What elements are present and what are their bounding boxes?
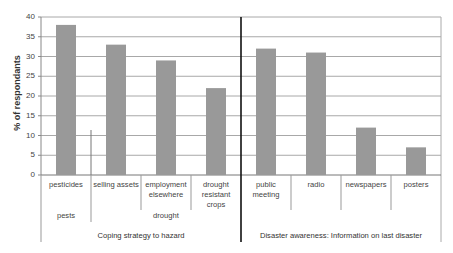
- category-label: publicmeeting: [241, 180, 291, 200]
- y-tick-label: 25: [11, 71, 35, 80]
- bar-drought-resistant-crops: [206, 88, 226, 175]
- category-label: droughtresistantcrops: [191, 180, 241, 210]
- category-label-line: drought: [191, 180, 241, 190]
- category-label-line: elsewhere: [141, 190, 191, 200]
- y-tick-label: 20: [11, 91, 35, 100]
- category-label: pesticides: [41, 180, 91, 190]
- y-tick-label: 40: [11, 12, 35, 21]
- bar-selling-assets: [106, 45, 126, 175]
- panel-title-awareness: Disaster awareness: Information on last …: [241, 231, 441, 240]
- bar-pesticides: [56, 25, 76, 175]
- category-label: employmentelsewhere: [141, 180, 191, 200]
- bar-chart: % of respondants 0510152025303540 pestic…: [0, 0, 453, 253]
- bar-employment-elsewhere: [156, 60, 176, 175]
- bar-radio: [306, 53, 326, 175]
- category-label: newspapers: [341, 180, 391, 190]
- y-tick-label: 0: [11, 170, 35, 179]
- y-tick-label: 5: [11, 150, 35, 159]
- category-label-line: public: [241, 180, 291, 190]
- category-label: radio: [291, 180, 341, 190]
- category-label-line: resistant: [191, 190, 241, 200]
- category-label-line: employment: [141, 180, 191, 190]
- category-label-line: selling assets: [91, 180, 141, 190]
- category-label-line: crops: [191, 200, 241, 210]
- category-label-line: meeting: [241, 190, 291, 200]
- panel-title-coping: Coping strategy to hazard: [41, 231, 241, 240]
- y-tick-label: 15: [11, 111, 35, 120]
- y-tick-label: 10: [11, 131, 35, 140]
- category-label: selling assets: [91, 180, 141, 190]
- y-tick-label: 35: [11, 32, 35, 41]
- group-label-pests: pests: [41, 211, 91, 220]
- group-label-drought: drought: [91, 211, 241, 220]
- bar-public-meeting: [256, 49, 276, 175]
- category-label-line: posters: [391, 180, 441, 190]
- category-label: posters: [391, 180, 441, 190]
- category-label-line: radio: [291, 180, 341, 190]
- bar-newspapers: [356, 128, 376, 175]
- bar-posters: [406, 147, 426, 175]
- category-label-line: pesticides: [41, 180, 91, 190]
- y-tick-label: 30: [11, 52, 35, 61]
- category-label-line: newspapers: [341, 180, 391, 190]
